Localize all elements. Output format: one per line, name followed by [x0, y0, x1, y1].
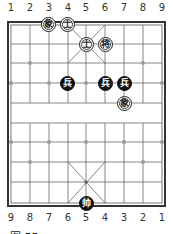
piece-red-general[interactable]: 将 — [98, 37, 113, 52]
file-number: 2 — [136, 212, 150, 224]
file-number: 5 — [79, 212, 93, 224]
file-number: 3 — [117, 212, 131, 224]
piece-black-soldier[interactable]: 兵 — [117, 76, 132, 91]
file-number: 6 — [61, 212, 75, 224]
file-number: 4 — [98, 212, 112, 224]
piece-red-elephant[interactable]: 象 — [41, 17, 56, 32]
file-number: 1 — [155, 212, 169, 224]
file-number: 9 — [4, 212, 18, 224]
piece-black-soldier[interactable]: 兵 — [98, 76, 113, 91]
file-number: 8 — [23, 212, 37, 224]
figure-caption: 图 55 — [10, 228, 39, 234]
piece-red-advisor[interactable]: 士 — [60, 17, 75, 32]
piece-red-elephant[interactable]: 象 — [117, 96, 132, 111]
piece-red-advisor[interactable]: 士 — [79, 37, 94, 52]
file-number: 7 — [42, 212, 56, 224]
piece-black-king[interactable]: 帅 — [79, 196, 94, 211]
piece-black-soldier[interactable]: 兵 — [60, 76, 75, 91]
